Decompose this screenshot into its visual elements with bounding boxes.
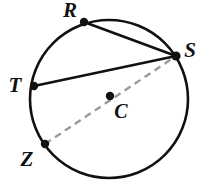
- point-dot-T: [30, 82, 38, 90]
- point-label-R: R: [62, 0, 77, 22]
- circle-diagram-figure: R S T Z C: [0, 0, 210, 195]
- center-dot-C: [106, 92, 114, 100]
- point-dot-R: [80, 18, 88, 26]
- segment-TS-chord: [34, 56, 176, 86]
- point-dot-S: [171, 51, 180, 60]
- point-label-Z: Z: [20, 147, 34, 171]
- point-label-T: T: [9, 73, 23, 97]
- geometry-canvas: R S T Z C: [0, 0, 210, 195]
- point-dot-Z: [41, 140, 49, 148]
- center-label-C: C: [114, 100, 128, 122]
- point-label-S: S: [184, 38, 196, 62]
